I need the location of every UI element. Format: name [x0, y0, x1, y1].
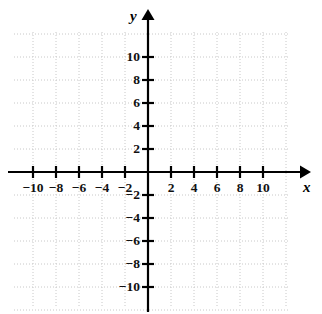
y-tick-label: 4: [106, 119, 140, 133]
coordinate-plane: x y −10−8−6−4−2246810108642−2−4−6−8−10: [0, 0, 322, 314]
y-tick-label: −6: [106, 234, 140, 248]
y-axis-arrow-icon: [142, 9, 155, 20]
y-tick-label: −2: [106, 188, 140, 202]
x-axis-label: x: [303, 180, 311, 195]
y-tick-label: −4: [106, 211, 140, 225]
y-tick-label: −10: [106, 280, 140, 294]
x-axis-group: [8, 166, 311, 179]
y-tick-label: 2: [106, 142, 140, 156]
y-tick-label: 10: [106, 50, 140, 64]
axis-layer: [0, 0, 322, 314]
y-tick-label: 8: [106, 73, 140, 87]
x-tick-label: 10: [248, 181, 278, 195]
y-axis-label: y: [130, 9, 137, 24]
y-tick-label: 6: [106, 96, 140, 110]
y-tick-label: −8: [106, 257, 140, 271]
x-axis-arrow-icon: [300, 166, 311, 179]
y-axis-group: [142, 9, 155, 312]
